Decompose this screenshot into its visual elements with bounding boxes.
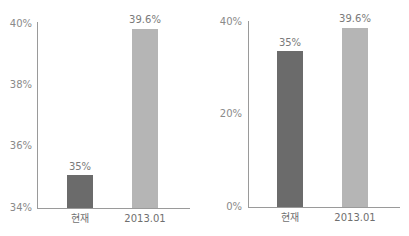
y-axis: [37, 22, 38, 209]
truncated-axis-bar-chart: 40% 38% 36% 34% 35% 39.6% 현재 2013.01: [0, 0, 205, 236]
bar-current: [67, 175, 93, 208]
y-tick-label: 20%: [212, 108, 242, 120]
bar-2013-01: [132, 29, 158, 208]
x-axis: [37, 208, 190, 209]
y-tick-label: 0%: [212, 201, 242, 213]
x-category-label: 현재: [265, 212, 315, 224]
x-axis: [248, 207, 400, 208]
bar-value-label: 35%: [60, 161, 100, 173]
y-tick-label: 40%: [2, 18, 32, 30]
full-axis-bar-chart: 40% 20% 0% 35% 39.6% 현재 2013.01: [209, 0, 409, 236]
x-category-label: 2013.01: [120, 213, 170, 225]
bar-value-label: 35%: [270, 37, 310, 49]
bar-2013-01: [342, 28, 368, 207]
bar-value-label: 39.6%: [335, 13, 375, 25]
y-tick-label: 36%: [2, 140, 32, 152]
bar-current: [277, 51, 303, 207]
bar-value-label: 39.6%: [125, 14, 165, 26]
y-tick-label: 34%: [2, 202, 32, 214]
y-tick-label: 40%: [212, 16, 242, 28]
x-category-label: 2013.01: [330, 212, 380, 224]
y-tick-label: 38%: [2, 79, 32, 91]
y-axis: [248, 21, 249, 208]
x-category-label: 현재: [55, 213, 105, 225]
